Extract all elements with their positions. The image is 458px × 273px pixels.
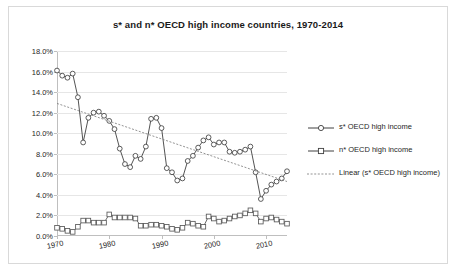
data-point-circle xyxy=(196,145,201,150)
data-point-circle xyxy=(159,126,164,131)
data-point-circle xyxy=(81,140,86,145)
data-point-circle xyxy=(128,165,133,170)
legend-item[interactable]: n* OECD high income xyxy=(307,143,455,155)
data-point-circle xyxy=(269,182,274,187)
data-point-circle xyxy=(243,147,248,152)
legend-item[interactable]: Linear (s* OECD high income) xyxy=(307,166,455,178)
data-point-square xyxy=(138,223,143,228)
y-tick-label: 12.0% xyxy=(9,108,53,117)
y-tick-label: 10.0% xyxy=(9,129,53,138)
data-point-square xyxy=(86,218,91,223)
data-point-circle xyxy=(91,110,96,115)
series-plot xyxy=(57,51,287,236)
data-point-square xyxy=(253,211,258,216)
data-point-square xyxy=(227,216,232,221)
data-point-circle xyxy=(170,170,175,175)
data-point-circle xyxy=(86,115,91,120)
data-point-circle xyxy=(232,150,237,155)
data-point-square xyxy=(60,227,65,232)
y-tick-label: 0.0% xyxy=(9,232,53,241)
data-point-circle xyxy=(65,75,70,80)
data-point-square xyxy=(285,221,290,226)
series-line xyxy=(57,71,287,199)
data-point-square xyxy=(107,212,112,217)
data-point-circle xyxy=(201,138,206,143)
data-point-square xyxy=(206,214,211,219)
x-tick-label: 1990 xyxy=(151,239,169,251)
data-point-square xyxy=(117,215,122,220)
data-point-square xyxy=(279,219,284,224)
data-point-square xyxy=(123,215,128,220)
y-tick-label: 2.0% xyxy=(9,211,53,220)
data-point-square xyxy=(91,220,96,225)
data-point-square xyxy=(196,223,201,228)
data-point-square xyxy=(180,225,185,230)
data-point-circle xyxy=(274,179,279,184)
data-point-square xyxy=(264,216,269,221)
data-point-square xyxy=(164,224,169,229)
chart-title: s* and n* OECD high income countries, 19… xyxy=(9,19,447,30)
data-point-square xyxy=(55,225,60,230)
data-point-square xyxy=(128,215,133,220)
data-point-circle xyxy=(264,188,269,193)
data-point-square xyxy=(175,228,180,233)
data-point-square xyxy=(238,213,243,218)
data-point-square xyxy=(144,223,149,228)
x-tick-label: 2010 xyxy=(255,239,273,251)
legend-label: n* OECD high income xyxy=(339,145,412,154)
y-tick-label: 14.0% xyxy=(9,88,53,97)
data-point-circle xyxy=(238,149,243,154)
y-tick-label: 6.0% xyxy=(9,170,53,179)
data-point-circle xyxy=(112,127,117,132)
x-tick-label: 1970 xyxy=(46,239,64,251)
data-point-circle xyxy=(133,153,138,158)
data-point-circle xyxy=(211,142,216,147)
data-point-circle xyxy=(76,95,81,100)
y-tick-label: 16.0% xyxy=(9,67,53,76)
data-point-square xyxy=(222,218,227,223)
data-point-circle xyxy=(154,115,159,120)
data-point-circle xyxy=(217,140,222,145)
plot-area: 0.0%2.0%4.0%6.0%8.0%10.0%12.0%14.0%16.0%… xyxy=(57,51,287,236)
data-point-square xyxy=(81,218,86,223)
data-point-circle xyxy=(60,73,65,78)
y-tick-label: 8.0% xyxy=(9,149,53,158)
legend-item[interactable]: s* OECD high income xyxy=(307,120,455,132)
data-point-circle xyxy=(180,176,185,181)
data-point-circle xyxy=(96,109,101,114)
legend-label: s* OECD high income xyxy=(339,122,412,131)
data-point-circle xyxy=(55,68,60,73)
data-point-square xyxy=(191,221,196,226)
data-point-circle xyxy=(175,178,180,183)
data-point-square xyxy=(112,215,117,220)
chart-legend: s* OECD high incomen* OECD high incomeLi… xyxy=(307,120,455,189)
data-point-square xyxy=(243,211,248,216)
x-tick-label: 1980 xyxy=(98,239,116,251)
data-point-circle xyxy=(191,153,196,158)
data-point-square xyxy=(170,227,175,232)
data-point-square xyxy=(133,216,138,221)
data-point-circle xyxy=(248,144,253,149)
data-point-square xyxy=(149,222,154,227)
data-point-square xyxy=(201,224,206,229)
data-point-square xyxy=(76,224,81,229)
data-point-square xyxy=(159,223,164,228)
y-tick-label: 4.0% xyxy=(9,190,53,199)
data-point-square xyxy=(269,215,274,220)
data-point-square xyxy=(248,208,253,213)
y-tick-label: 18.0% xyxy=(9,47,53,56)
data-point-circle xyxy=(117,146,122,151)
data-point-circle xyxy=(185,159,190,164)
legend-key-square-icon xyxy=(307,143,335,155)
data-point-circle xyxy=(138,157,143,162)
data-point-square xyxy=(70,230,75,235)
legend-key-none-icon xyxy=(307,166,335,178)
data-point-square xyxy=(102,220,107,225)
data-point-circle xyxy=(164,166,169,171)
data-point-circle xyxy=(227,149,232,154)
data-point-square xyxy=(65,229,70,234)
chart-frame: s* and n* OECD high income countries, 19… xyxy=(8,6,448,264)
data-point-circle xyxy=(102,113,107,118)
x-tick-label: 2000 xyxy=(203,239,221,251)
legend-key-circle-icon xyxy=(307,120,335,132)
